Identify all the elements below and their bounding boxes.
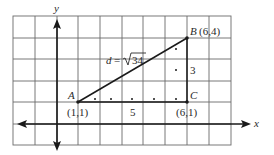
- point-A-name: A: [67, 89, 75, 101]
- point-B-name: B: [190, 25, 197, 37]
- right-triangle: [78, 38, 187, 102]
- point-A: [76, 100, 80, 104]
- point-C-coord: (6,1): [176, 106, 197, 119]
- vertical-leg-length: 3: [190, 64, 196, 76]
- point-C: [185, 100, 189, 104]
- distance-equals: =: [114, 54, 120, 66]
- x-axis-label: x: [253, 117, 259, 129]
- distance-radicand: 34: [132, 54, 144, 66]
- distance-d-symbol: d: [106, 54, 112, 66]
- x-axis: [17, 120, 251, 128]
- distance-label: d = 34: [106, 53, 146, 66]
- point-B: [185, 36, 189, 40]
- point-B-coord: (6,4): [199, 25, 220, 38]
- point-C-name: C: [190, 89, 198, 101]
- y-axis-label: y: [53, 2, 59, 14]
- coordinate-diagram: x y A (1,1) B (6,4) C (6,1) 5 3 d = 34: [0, 0, 274, 155]
- horizontal-leg-length: 5: [130, 106, 136, 118]
- y-axis: [53, 19, 61, 151]
- point-A-coord: (1,1): [67, 106, 88, 119]
- hypotenuse-AB: [78, 38, 187, 102]
